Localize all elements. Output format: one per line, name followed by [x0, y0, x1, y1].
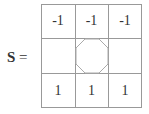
matrix-label: S =	[7, 49, 28, 66]
octagon-icon	[76, 39, 108, 73]
matrix-name: S	[7, 49, 15, 65]
cell-r2-c0: 1	[41, 74, 75, 108]
cell-r2-c2: 1	[108, 74, 142, 108]
cell-r0-c1: -1	[75, 4, 108, 38]
cell-r2-c1: 1	[75, 74, 108, 108]
kernel-grid: -1 -1 -1 1 1 1	[41, 4, 142, 108]
cell-r0-c0: -1	[41, 4, 75, 38]
cell-r0-c2: -1	[108, 4, 142, 38]
equals-sign: =	[19, 49, 27, 65]
